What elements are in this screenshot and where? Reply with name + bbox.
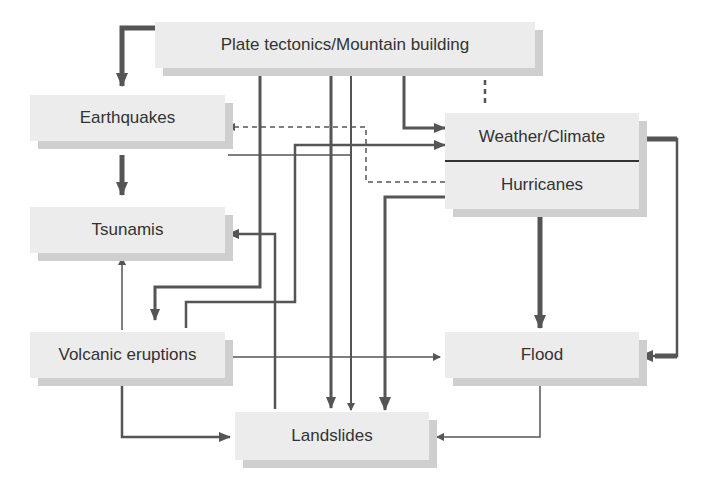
node-flood: Flood <box>445 332 639 378</box>
node-volcanic-eruptions: Volcanic eruptions <box>30 332 225 378</box>
node-label: Flood <box>521 345 564 365</box>
node-earthquakes: Earthquakes <box>30 95 225 141</box>
edge-landslides-to-tsunamis <box>228 234 275 409</box>
edge-volcanic-to-landslides <box>122 385 230 437</box>
edge-hurricanes-to-landslides <box>385 197 445 410</box>
node-label: Weather/Climate <box>479 127 605 147</box>
node-tsunamis: Tsunamis <box>30 207 225 253</box>
node-divider <box>445 160 639 162</box>
edge-plate-to-weather <box>404 62 445 128</box>
node-plate-tectonics: Plate tectonics/Mountain building <box>155 22 535 68</box>
node-label: Tsunamis <box>92 220 164 240</box>
node-label: Landslides <box>291 426 372 446</box>
node-hurricanes-section: Hurricanes <box>445 161 639 209</box>
node-label: Earthquakes <box>80 108 175 128</box>
node-label: Volcanic eruptions <box>59 345 197 365</box>
node-weather-section: Weather/Climate <box>445 113 639 161</box>
node-sub-label: Hurricanes <box>501 175 583 195</box>
edge-weather-to-flood <box>638 139 677 356</box>
edge-flood-to-landslides <box>437 384 540 437</box>
node-weather-climate: Weather/Climate Hurricanes <box>445 113 639 209</box>
edge-plate-to-earthquakes <box>122 28 155 86</box>
node-landslides: Landslides <box>235 412 429 460</box>
node-label: Plate tectonics/Mountain building <box>221 35 470 55</box>
